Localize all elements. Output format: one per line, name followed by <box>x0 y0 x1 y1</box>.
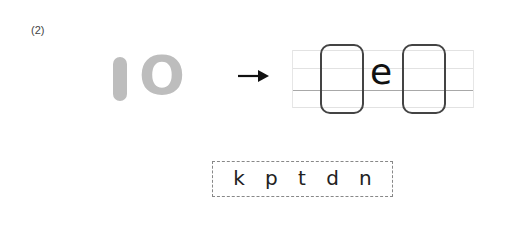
choice-t[interactable]: t <box>298 166 306 192</box>
choice-k[interactable]: k <box>233 166 245 192</box>
choice-p[interactable]: p <box>265 166 278 192</box>
fixed-letter-e: e <box>370 52 392 92</box>
problem-number: (2) <box>31 24 44 36</box>
given-letter-i <box>113 57 127 101</box>
choice-n[interactable]: n <box>359 166 372 192</box>
answer-slot-2[interactable] <box>402 44 446 114</box>
letter-choices-box: k p t d n <box>212 161 393 197</box>
answer-slot-1[interactable] <box>320 44 364 114</box>
choice-d[interactable]: d <box>326 166 339 192</box>
given-letter-o: O <box>139 48 185 104</box>
right-arrow-icon <box>238 64 270 88</box>
